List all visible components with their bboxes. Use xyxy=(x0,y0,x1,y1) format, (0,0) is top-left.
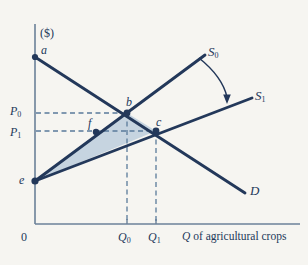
point-label-e: e xyxy=(19,174,24,186)
price-label-p1-subscript: 1 xyxy=(17,131,21,140)
quantity-label-q1-letter: Q xyxy=(148,230,157,244)
supply-demand-figure: ($) a b c e f P0 P1 S0 S1 D 0 Q0 Q1 Q of… xyxy=(0,0,308,265)
point-label-f: f xyxy=(88,117,91,129)
quantity-label-q0-subscript: 0 xyxy=(127,236,131,245)
point-label-b: b xyxy=(126,96,132,108)
quantity-label-q0-letter: Q xyxy=(118,230,127,244)
point-dot-a xyxy=(32,54,38,60)
point-dot-e xyxy=(31,177,38,184)
quantity-label-q1: Q1 xyxy=(148,231,161,245)
x-axis-label: Q of agricultural crops xyxy=(182,231,286,243)
curve-label-s0-subscript: 0 xyxy=(215,51,219,60)
price-label-p0-subscript: 0 xyxy=(17,110,21,119)
curve-label-s0: S0 xyxy=(208,45,219,60)
point-label-c: c xyxy=(156,116,161,128)
y-axis-label: ($) xyxy=(40,27,54,39)
point-dot-f xyxy=(93,129,99,135)
supply-shift-arrowhead-icon xyxy=(223,95,231,105)
curve-label-s1: S1 xyxy=(255,89,266,104)
curve-label-d: D xyxy=(250,184,259,197)
supply-shift-arrow xyxy=(199,58,227,97)
point-label-a: a xyxy=(41,44,47,56)
supply-curve-s1 xyxy=(35,98,252,181)
origin-label: 0 xyxy=(21,231,27,243)
quantity-label-q0: Q0 xyxy=(118,231,131,245)
curve-label-s1-subscript: 1 xyxy=(262,95,266,104)
point-dot-b xyxy=(124,110,131,117)
quantity-label-q1-subscript: 1 xyxy=(157,236,161,245)
x-axis-label-text: of agricultural crops xyxy=(190,230,286,242)
price-label-p1: P1 xyxy=(10,126,21,140)
demand-curve xyxy=(35,57,245,193)
price-label-p0: P0 xyxy=(10,105,21,119)
